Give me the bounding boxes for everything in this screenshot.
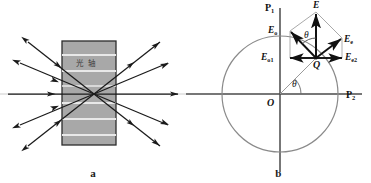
axis-label-P2: P2 bbox=[346, 90, 355, 100]
point-label-Q: Q bbox=[313, 60, 320, 70]
vector-label-Eo1-sub: o1 bbox=[267, 56, 273, 63]
vector-label-E: E bbox=[313, 1, 319, 11]
vector-label-E-letter: E bbox=[313, 0, 319, 10]
optics-figure: 光 轴 a bbox=[0, 0, 371, 183]
panel-b-caption: b bbox=[186, 167, 371, 179]
vector-label-Eo1: Eo1 bbox=[261, 53, 274, 63]
panel-a-crystal-rays: 光 轴 a bbox=[0, 0, 186, 183]
radius-line-OQ bbox=[280, 58, 316, 94]
axis-label-P1: P1 bbox=[265, 3, 274, 13]
origin-label-O: O bbox=[267, 98, 274, 108]
angle-label-theta-Q: θ bbox=[304, 31, 309, 41]
panel-b-vector-diagram: P1 P2 O Q E Eo Ee Eo1 Ee2 θ θ b bbox=[186, 0, 371, 183]
optical-axis-text: 光 轴 bbox=[76, 60, 96, 68]
axis-label-P2-sub: 2 bbox=[352, 94, 355, 101]
vector-Ee bbox=[316, 39, 341, 58]
panel-a-caption: a bbox=[0, 167, 186, 179]
axis-label-P1-sub: 1 bbox=[271, 7, 274, 14]
vector-label-Ee-sub: e bbox=[350, 38, 353, 45]
vector-label-Eo: Eo bbox=[268, 26, 277, 36]
panel-b-drawing bbox=[186, 0, 371, 183]
crystal-slab bbox=[62, 41, 116, 145]
vector-label-Ee2-sub: e2 bbox=[351, 56, 357, 63]
vector-label-Ee: Ee bbox=[344, 35, 353, 45]
panel-a-drawing bbox=[0, 0, 186, 183]
vector-label-Eo-sub: o bbox=[274, 29, 277, 36]
angle-label-theta-origin: θ bbox=[292, 80, 297, 90]
vector-label-Ee2: Ee2 bbox=[345, 53, 357, 63]
